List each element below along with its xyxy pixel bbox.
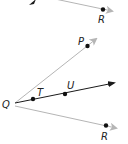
- point-u: [63, 92, 67, 96]
- ray-qp: [15, 39, 96, 103]
- black-arrowhead-fragment: [29, 0, 36, 5]
- label-r-top: R: [98, 14, 105, 25]
- geometry-diagram: R P T U R Q: [0, 0, 128, 144]
- ray-qr: [15, 106, 116, 128]
- label-r: R: [101, 131, 108, 142]
- label-u: U: [67, 80, 75, 91]
- point-p: [85, 44, 89, 48]
- point-r: [104, 123, 108, 127]
- top-fragment: R: [29, 0, 112, 25]
- point-r-top: [101, 7, 105, 11]
- label-p: P: [78, 36, 85, 47]
- point-t: [31, 97, 35, 101]
- label-q: Q: [2, 99, 10, 110]
- label-t: T: [37, 87, 44, 98]
- bottom-figure: P T U R Q: [2, 36, 116, 142]
